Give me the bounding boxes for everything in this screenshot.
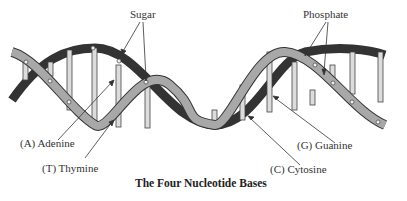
sugar-label: Sugar — [130, 8, 156, 20]
guanine-label: (G) Guanine — [297, 139, 352, 151]
adenine-label: (A) Adenine — [20, 137, 75, 149]
thymine-label: (T) Thymine — [42, 162, 98, 174]
phosphate-label: Phosphate — [303, 8, 348, 20]
diagram-title: The Four Nucleotide Bases — [135, 177, 267, 189]
cytosine-label: (C) Cytosine — [270, 163, 327, 175]
